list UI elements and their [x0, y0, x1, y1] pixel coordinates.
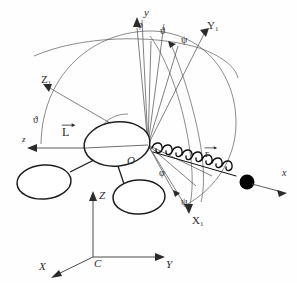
ellipse-left: [16, 163, 72, 201]
label-phi-top: φ: [137, 20, 143, 30]
label-theta-left: ϑ: [33, 115, 38, 125]
label-Y1-letter: Y: [207, 19, 215, 31]
label-Z1-axis: Z1: [41, 74, 51, 86]
label-L-vector: L: [62, 126, 69, 138]
arrowhead-Z-fixed: [89, 191, 97, 201]
label-psi-top: ψ: [181, 35, 187, 45]
label-C-origin: C: [94, 258, 101, 269]
label-X1-letter: X: [192, 214, 200, 226]
point-mass: [240, 175, 255, 190]
vector-arrow-icon: [204, 145, 218, 150]
label-z-axis: z: [22, 135, 26, 144]
fixed-X-line: [56, 257, 93, 275]
ellipse-main: [82, 119, 152, 170]
label-X1-subscript: 1: [200, 220, 203, 227]
label-origin-O: O: [127, 155, 135, 166]
ray-node-line: [148, 24, 164, 145]
mechanics-diagram: y φ ϑ ψ Y1 Z1 ϑ z L O φ ψ X1 r: [0, 0, 297, 283]
label-psi-lower: ψ: [181, 197, 187, 207]
label-phi-lower: φ: [159, 168, 165, 178]
arrowhead-X-fixed: [51, 270, 62, 278]
label-Y1-axis: Y1: [207, 20, 218, 32]
ray-to-psi-node: [148, 46, 178, 145]
label-Z-fixed: Z: [99, 190, 105, 201]
label-Y-fixed: Y: [166, 259, 172, 270]
arrowhead-Y-fixed: [155, 253, 165, 261]
label-theta-top: ϑ: [160, 26, 165, 36]
ray-to-theta-node: [148, 41, 151, 145]
ellipse-lower: [112, 179, 166, 216]
arrowhead-z: [27, 144, 37, 152]
label-r-vector: r: [205, 148, 209, 159]
label-X-fixed: X: [39, 261, 46, 272]
label-y-axis: y: [144, 7, 149, 18]
label-Z1-subscript: 1: [48, 79, 51, 86]
ray-to-Y1: [148, 32, 205, 145]
label-x-axis: x: [282, 168, 286, 178]
label-Y1-subscript: 1: [215, 25, 218, 32]
label-X1-axis: X1: [192, 215, 203, 227]
label-Z1-letter: Z: [41, 73, 48, 85]
figure-canvas: [0, 0, 297, 283]
point-mass-group: [240, 175, 288, 198]
vector-arrow-icon: [61, 122, 76, 127]
arrowhead-x: [277, 190, 287, 197]
